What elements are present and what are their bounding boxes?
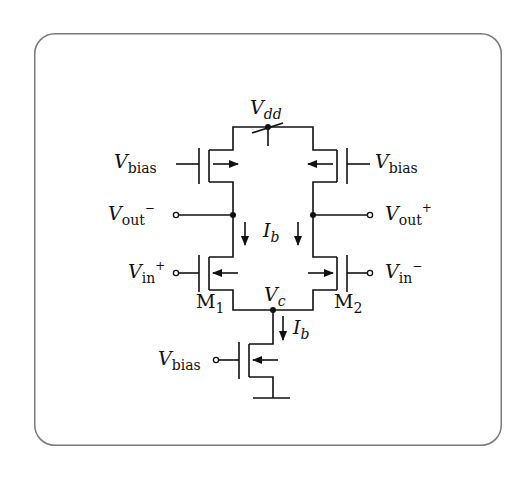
m2-label: M2 [334, 292, 362, 311]
vc-label: Vc [264, 285, 286, 304]
vout-minus-terminal [173, 212, 178, 217]
vout-plus-label: Vout+ [385, 204, 432, 223]
vout-minus-junction [230, 212, 236, 218]
vbias-tail-label: Vbias [158, 349, 201, 368]
vdd-junction [265, 124, 271, 130]
ib-tail-label: Ib [293, 318, 309, 337]
vout-plus-junction [310, 212, 316, 218]
m1-label: M1 [196, 292, 224, 311]
ib-center-label: Ib [263, 221, 279, 240]
vdd-label: Vdd [250, 98, 282, 117]
vc-junction [270, 307, 276, 313]
vout-minus-label: Vout− [108, 204, 155, 223]
vbias-left-label: Vbias [114, 152, 157, 171]
vin-plus-terminal [173, 270, 178, 275]
vin-plus-label: Vin+ [128, 262, 165, 281]
vout-plus-terminal [367, 212, 372, 217]
vbias-right-label: Vbias [375, 152, 418, 171]
vin-minus-label: Vin− [385, 262, 422, 281]
vin-minus-terminal [367, 270, 372, 275]
vbias-tail-terminal [213, 357, 218, 362]
